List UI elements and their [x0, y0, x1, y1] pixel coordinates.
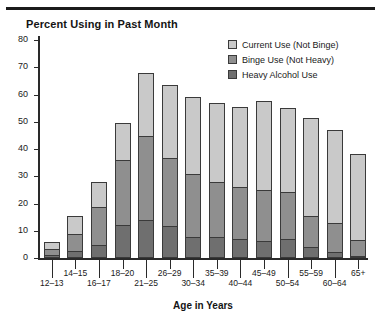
x-axis-label-35-39: 35–39: [205, 269, 229, 278]
y-axis-tick-label: 10: [18, 226, 28, 235]
plot-area: 01020304050607080 12–1314–1516–1718–2021…: [38, 40, 368, 258]
bar-segment-binge-use: [92, 207, 106, 245]
x-axis-tick: [99, 260, 100, 278]
bar-segment-binge-use: [186, 174, 200, 238]
bar-segment-heavy-use: [163, 226, 177, 257]
x-axis-label-65+: 65+: [351, 269, 365, 278]
bar-segment-current-use: [233, 108, 247, 187]
bar-segment-heavy-use: [281, 239, 295, 257]
bar-segment-current-use: [163, 86, 177, 158]
x-axis-label-12-13: 12–13: [40, 279, 64, 288]
bar-segment-current-use: [281, 109, 295, 192]
bar-segment-heavy-use: [116, 225, 130, 257]
y-axis-tick: 0: [34, 258, 39, 259]
x-axis-label-21-25: 21–25: [134, 279, 158, 288]
bar-35-39[interactable]: [209, 103, 225, 258]
bar-segment-binge-use: [233, 187, 247, 239]
x-axis-tick: [146, 260, 147, 278]
bar-segment-binge-use: [351, 240, 365, 256]
bar-segment-binge-use: [116, 160, 130, 224]
bar-65+[interactable]: [350, 154, 366, 258]
bar-segment-current-use: [92, 183, 106, 207]
chart-title: Percent Using in Past Month: [26, 18, 178, 30]
bar-45-49[interactable]: [256, 101, 272, 258]
y-axis-tick-label: 40: [18, 144, 28, 153]
bar-16-17[interactable]: [91, 182, 107, 258]
bar-segment-current-use: [257, 102, 271, 190]
x-axis-label-45-49: 45–49: [252, 269, 276, 278]
bar-segment-heavy-use: [328, 252, 342, 257]
bar-segment-heavy-use: [45, 255, 59, 257]
bar-40-44[interactable]: [232, 107, 248, 258]
bar-segment-binge-use: [68, 234, 82, 251]
bar-segment-heavy-use: [351, 256, 365, 257]
y-axis-tick-label: 20: [18, 199, 28, 208]
bar-26-29[interactable]: [162, 85, 178, 258]
bar-segment-current-use: [351, 155, 365, 240]
x-axis-ticks: 12–1314–1516–1718–2021–2526–2930–3435–39…: [38, 260, 368, 300]
bar-segment-heavy-use: [139, 220, 153, 257]
x-axis-label-26-29: 26–29: [158, 269, 182, 278]
bar-segment-binge-use: [328, 223, 342, 253]
chart-page: Percent Using in Past Month Current Use …: [0, 0, 381, 315]
x-axis-tick: [335, 260, 336, 278]
x-axis-label-30-34: 30–34: [181, 279, 205, 288]
y-axis-tick-label: 70: [18, 62, 28, 71]
bar-30-34[interactable]: [185, 97, 201, 258]
bar-segment-current-use: [68, 217, 82, 235]
bar-segment-heavy-use: [68, 251, 82, 257]
bar-segment-current-use: [304, 119, 318, 216]
bar-segment-heavy-use: [233, 239, 247, 257]
y-axis-tick-label: 80: [18, 35, 28, 44]
bar-18-20[interactable]: [115, 123, 131, 258]
bar-segment-heavy-use: [304, 247, 318, 257]
bar-21-25[interactable]: [138, 73, 154, 258]
bar-segment-heavy-use: [92, 245, 106, 257]
bar-segment-binge-use: [210, 182, 224, 238]
y-axis-tick-label: 0: [23, 253, 28, 262]
bar-segment-binge-use: [139, 136, 153, 221]
bar-segment-heavy-use: [186, 237, 200, 257]
bar-group: [38, 40, 368, 258]
bar-14-15[interactable]: [67, 216, 83, 258]
bar-segment-current-use: [116, 124, 130, 160]
x-axis-label-40-44: 40–44: [229, 279, 253, 288]
x-axis-label-60-64: 60–64: [323, 279, 347, 288]
bar-12-13[interactable]: [44, 242, 60, 258]
x-axis-tick: [193, 260, 194, 278]
x-axis-label-55-59: 55–59: [299, 269, 323, 278]
x-axis-tick: [52, 260, 53, 278]
bar-segment-heavy-use: [257, 241, 271, 257]
x-axis-tick: [288, 260, 289, 278]
bar-50-54[interactable]: [280, 108, 296, 258]
bar-segment-current-use: [210, 104, 224, 182]
bar-segment-binge-use: [304, 216, 318, 247]
x-axis-tick: [240, 260, 241, 278]
bar-55-59[interactable]: [303, 118, 319, 258]
bar-segment-binge-use: [163, 158, 177, 226]
x-axis-label-50-54: 50–54: [276, 279, 300, 288]
header-divider-rule: [6, 7, 375, 10]
x-axis-label-16-17: 16–17: [87, 279, 111, 288]
bar-60-64[interactable]: [327, 130, 343, 258]
bar-segment-heavy-use: [210, 237, 224, 257]
x-axis-label-18-20: 18–20: [111, 269, 135, 278]
bar-segment-current-use: [328, 131, 342, 223]
bar-segment-binge-use: [257, 190, 271, 241]
y-axis-tick-label: 60: [18, 90, 28, 99]
x-axis-label-14-15: 14–15: [64, 269, 88, 278]
page-header-faint-text: [30, 0, 360, 5]
bar-segment-binge-use: [281, 192, 295, 239]
y-axis-tick-label: 50: [18, 117, 28, 126]
bar-segment-current-use: [139, 74, 153, 136]
x-axis-title: Age in Years: [38, 300, 368, 311]
y-axis-tick-label: 30: [18, 171, 28, 180]
bar-segment-current-use: [186, 98, 200, 173]
